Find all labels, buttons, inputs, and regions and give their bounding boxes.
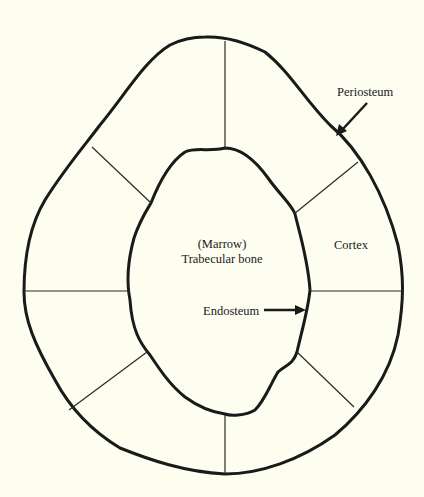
radial-line-upper-right xyxy=(294,162,358,214)
radial-line-lower-right xyxy=(297,352,354,407)
radial-line-upper-left xyxy=(92,147,151,203)
marrow-label: (Marrow) xyxy=(198,237,247,251)
endosteum-arrow xyxy=(264,305,306,315)
cortex-label: Cortex xyxy=(334,238,369,252)
trabecular-bone-label: Trabecular bone xyxy=(181,252,263,266)
endosteum-outline xyxy=(128,148,310,415)
periosteum-arrow xyxy=(336,103,367,136)
endosteum-label: Endosteum xyxy=(203,304,260,318)
periosteum-label: Periosteum xyxy=(337,85,394,99)
bone-cross-section-diagram: Periosteum (Marrow) Trabecular bone Cort… xyxy=(0,0,424,497)
radial-line-lower-left xyxy=(69,352,147,410)
